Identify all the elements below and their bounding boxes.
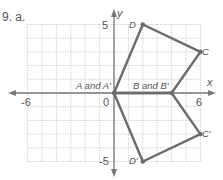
point-label-c-prime: C' bbox=[202, 128, 212, 139]
y-tick-neg5: -5 bbox=[99, 155, 109, 167]
vertex-point-d bbox=[141, 22, 146, 27]
problem-label: 9. a. bbox=[2, 10, 25, 24]
point-label-a: A and A' bbox=[75, 80, 112, 91]
origin-label: 0 bbox=[103, 96, 109, 108]
x-axis-right-arrow-icon bbox=[208, 90, 216, 96]
x-tick-6: 6 bbox=[196, 96, 202, 108]
x-axis-label: x bbox=[206, 76, 213, 88]
point-label-b: B and B' bbox=[133, 80, 170, 91]
y-axis-down-arrow-icon bbox=[111, 169, 117, 177]
y-tick-5: 5 bbox=[102, 19, 108, 31]
point-label-d-prime: D' bbox=[129, 155, 139, 166]
vertex-point-b bbox=[169, 91, 174, 96]
y-axis-label: y bbox=[116, 7, 124, 19]
x-axis-left-arrow-icon bbox=[8, 90, 16, 96]
x-tick-neg6: -6 bbox=[21, 96, 31, 108]
point-label-c: C bbox=[202, 46, 209, 57]
vertex-point-d-prime bbox=[141, 159, 146, 164]
vertex-point-a bbox=[112, 91, 117, 96]
coordinate-plane: 9. a. y x 5 -5 -6 6 0 A and A' B and B' … bbox=[0, 0, 223, 180]
point-label-d: D bbox=[129, 19, 136, 30]
